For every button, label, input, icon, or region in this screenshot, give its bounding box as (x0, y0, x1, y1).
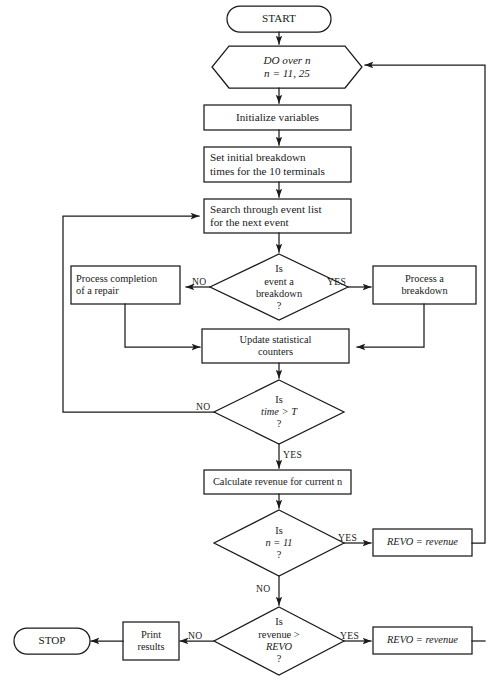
node-revo-assign-2-shape (373, 627, 472, 654)
node-start-shape (227, 6, 331, 32)
node-is-time-shape (214, 380, 344, 444)
node-stop-shape (14, 628, 90, 654)
edge-label-breakdown-yes: YES (327, 276, 346, 287)
edge-label-rev-yes: YES (340, 630, 359, 641)
node-is-breakdown-shape (210, 254, 348, 320)
node-set-breakdown-shape (204, 147, 351, 182)
node-process-completion-shape (71, 266, 180, 304)
edge-label-time-yes: YES (283, 449, 302, 460)
node-do-loop-shape (212, 46, 362, 88)
edge-label-n11-no: NO (256, 583, 270, 594)
edge-label-rev-no: NO (188, 630, 202, 641)
node-is-rev-gt-revo-shape (214, 607, 344, 675)
edge-label-n11-yes: YES (338, 532, 357, 543)
node-revo-assign-1-shape (373, 529, 472, 556)
node-init-shape (204, 105, 351, 130)
node-search-shape (204, 199, 351, 233)
flowchart-graphics (0, 0, 499, 692)
edge-label-breakdown-no: NO (192, 276, 206, 287)
node-calc-revenue-shape (204, 470, 351, 494)
node-process-breakdown-shape (373, 266, 476, 304)
flowchart-canvas: START DO over n n = 11, 25 Initialize va… (0, 0, 499, 692)
node-update-counters-shape (202, 329, 349, 363)
edge-label-time-no: NO (196, 401, 210, 412)
node-print-results-shape (123, 622, 179, 660)
node-is-n11-shape (214, 510, 344, 576)
